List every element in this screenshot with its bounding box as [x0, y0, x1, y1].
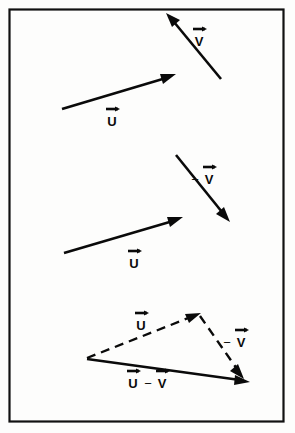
vector-diagram-figure: V U − V U — [0, 0, 295, 433]
negative-v-label-panel3-minus: − — [223, 335, 231, 350]
u-label-panel1-text: U — [107, 114, 116, 129]
negative-v-label-panel2-minus: − — [191, 172, 199, 187]
u-minus-v-label-u: U — [128, 376, 137, 391]
negative-v-label-panel2-text: V — [205, 172, 214, 187]
vector-diagram-canvas: V U − V U — [0, 0, 295, 433]
u-minus-v-label-minus: − — [144, 376, 152, 391]
u-label-panel3-text: U — [136, 318, 145, 333]
negative-v-label-panel3-text: V — [237, 335, 246, 350]
u-label-panel2-text: U — [129, 256, 138, 271]
v-label-panel1-text: V — [195, 34, 204, 49]
figure-border — [10, 10, 284, 422]
u-minus-v-label-v: V — [158, 376, 167, 391]
